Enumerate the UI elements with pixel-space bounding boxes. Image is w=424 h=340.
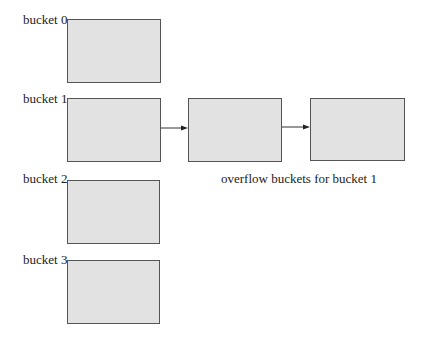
arrow-icon: [282, 125, 310, 130]
arrow-icon: [161, 126, 188, 131]
arrows: [0, 0, 424, 340]
overflow-caption: overflow buckets for bucket 1: [221, 171, 377, 187]
